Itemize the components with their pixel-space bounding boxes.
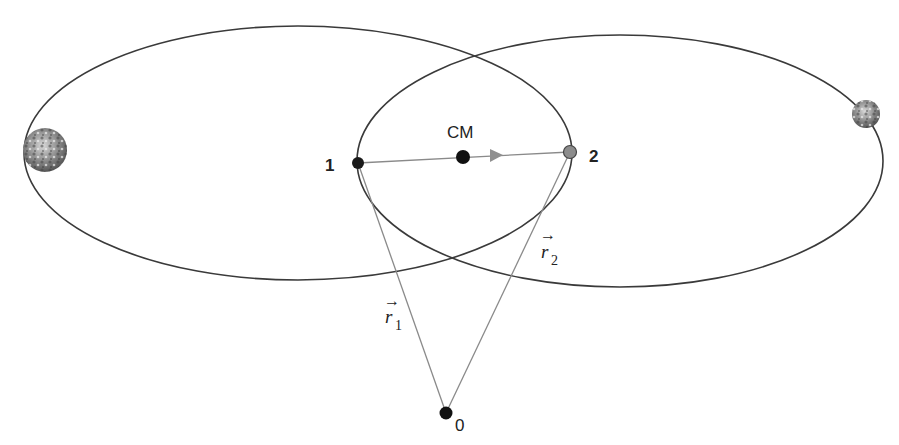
r1-subscript: 1 [395,318,402,333]
r2-symbol: r [541,241,549,262]
origin-dot [440,407,453,420]
cm-label: CM [447,123,473,142]
r1-label: → r 1 [384,292,402,333]
two-body-diagram: CM 1 2 0 → r 1 → r 2 [0,0,899,445]
planet-large-icon [23,128,67,172]
body-1-label: 1 [325,156,334,175]
r2-label: → r 2 [540,226,558,268]
orbit-left [24,26,572,280]
cm-dot [456,150,470,164]
body-2-dot [564,146,577,159]
body-1-dot [352,157,364,169]
orbit-right [357,35,883,287]
r1-symbol: r [385,306,393,327]
planet-small-icon [852,100,880,128]
r2-subscript: 2 [551,253,558,268]
vector-r1 [358,163,446,413]
body-2-label: 2 [589,147,598,166]
origin-label: 0 [455,416,464,435]
direction-arrow-icon [490,149,503,162]
